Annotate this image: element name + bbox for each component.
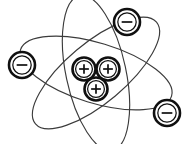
atom-diagram [0, 0, 191, 144]
electron-3 [154, 100, 180, 126]
electron-2 [9, 52, 35, 78]
electron-1 [114, 9, 140, 35]
atom-illustration [0, 0, 191, 144]
proton-3 [85, 78, 108, 101]
